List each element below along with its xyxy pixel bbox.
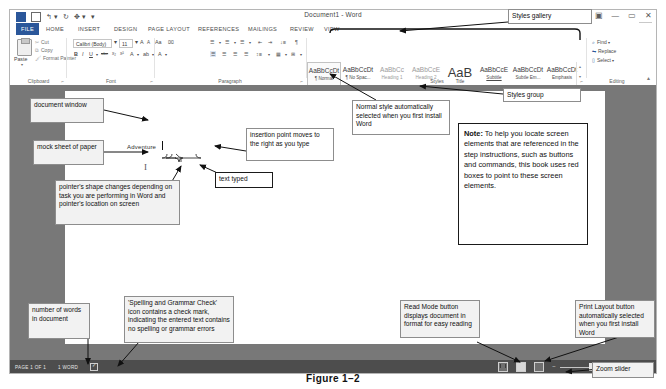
status-bar-left: PAGE 1 OF 1 1 WORD xyxy=(15,363,98,371)
shrink-font-button[interactable]: A xyxy=(147,40,150,45)
close-icon[interactable]: ✕ xyxy=(645,10,652,22)
zoom-out-icon[interactable]: − xyxy=(552,362,556,371)
show-formatting-marks-icon[interactable]: ¶ xyxy=(295,39,298,45)
grow-font-button[interactable]: A xyxy=(140,39,144,45)
tab-references[interactable]: REFERENCES xyxy=(198,23,239,35)
font-name-input[interactable]: Calibri (Body) xyxy=(73,39,112,48)
borders-dropdown-icon[interactable]: ▾ xyxy=(300,52,302,57)
figure-caption: Figure 1–2 xyxy=(0,373,666,384)
line-spacing-dropdown-icon[interactable]: ▾ xyxy=(268,52,270,57)
tab-view[interactable]: VIEW xyxy=(324,23,340,35)
ribbon: Paste ▾ ✂Cut ⧉Copy 🖌Format Painter Clipb… xyxy=(10,35,656,86)
borders-icon[interactable]: ⊞ xyxy=(291,51,295,57)
justify-icon[interactable]: ☰ xyxy=(244,51,248,57)
font-size-input[interactable]: 11 xyxy=(119,39,133,48)
strikethrough-button[interactable]: abc xyxy=(101,51,108,56)
note-body: To help you locate screen elements that … xyxy=(464,129,579,190)
group-label-clipboard: Clipboard xyxy=(10,78,67,84)
shading-icon[interactable]: ▦ xyxy=(276,51,281,57)
bullets-dropdown-icon[interactable]: ▾ xyxy=(219,40,221,45)
binoculars-icon: ⌕ xyxy=(592,39,595,45)
insertion-point xyxy=(162,141,163,150)
callout-note: Note: To help you locate screen elements… xyxy=(458,123,588,245)
web-layout-button[interactable] xyxy=(534,362,544,372)
cut-button[interactable]: ✂Cut xyxy=(35,39,49,45)
copy-button[interactable]: ⧉Copy xyxy=(35,47,53,54)
minimize-icon[interactable]: — xyxy=(612,10,620,22)
styles-dialog-launcher[interactable]: ⌐ xyxy=(580,79,583,84)
ribbon-group-styles: Styles ⌐ xyxy=(307,35,587,85)
note-label: Note: xyxy=(464,129,483,138)
print-layout-button[interactable] xyxy=(516,362,526,372)
select-button[interactable]: ▯Select ▾ xyxy=(592,57,614,63)
increase-indent-icon[interactable]: ⇥ xyxy=(268,39,272,45)
ribbon-group-font: Calibri (Body) ▾ 11 ▾ A A Aa ⌧ B I U ▾ a… xyxy=(67,35,155,85)
superscript-button[interactable]: x² xyxy=(120,51,124,56)
callout-mock-sheet: mock sheet of paper xyxy=(33,140,104,165)
callout-document-window: document window xyxy=(30,98,104,123)
align-right-icon[interactable]: ☰ xyxy=(233,51,237,57)
sort-icon[interactable]: ↓≡ xyxy=(280,39,286,45)
subscript-button[interactable]: x₂ xyxy=(112,51,116,56)
copy-icon: ⧉ xyxy=(35,47,39,53)
callout-text-typed: text typed xyxy=(215,172,273,188)
spelling-and-grammar-check-icon[interactable] xyxy=(90,363,98,371)
word-count[interactable]: 1 WORD xyxy=(58,365,78,370)
collapse-ribbon-icon[interactable]: ▲ xyxy=(646,75,651,81)
replace-icon: ⇋ xyxy=(592,48,596,54)
page-indicator[interactable]: PAGE 1 OF 1 xyxy=(15,365,46,370)
font-name-dropdown-icon[interactable]: ▾ xyxy=(112,39,118,45)
group-label-font: Font xyxy=(67,78,155,84)
tab-page-layout[interactable]: PAGE LAYOUT xyxy=(148,23,190,35)
paste-icon[interactable] xyxy=(17,39,32,56)
select-icon: ▯ xyxy=(592,57,595,63)
numbering-icon[interactable]: ☰ xyxy=(225,39,229,45)
align-center-icon[interactable]: ☰ xyxy=(222,51,226,57)
text-effects-icon[interactable]: A xyxy=(130,51,134,57)
underline-button[interactable]: U xyxy=(89,51,93,57)
tab-mailings[interactable]: MAILINGS xyxy=(248,23,277,35)
numbering-dropdown-icon[interactable]: ▾ xyxy=(234,40,236,45)
clipboard-dialog-launcher[interactable]: ⌐ xyxy=(61,79,64,84)
multilevel-list-icon[interactable]: ☰ xyxy=(240,39,244,45)
callout-pointer-shape: pointer's shape changes depending on tas… xyxy=(55,180,180,225)
callout-print-layout: Print Layout button automatically select… xyxy=(575,300,655,338)
bold-button[interactable]: B xyxy=(74,51,78,57)
highlight-color-icon[interactable]: ab xyxy=(143,51,149,57)
align-left-icon[interactable]: ☰ xyxy=(210,51,216,57)
group-label-paragraph: Paragraph xyxy=(175,78,285,84)
underline-dropdown-icon[interactable]: ▾ xyxy=(96,52,98,57)
read-mode-button[interactable] xyxy=(498,362,508,372)
text-effects-dropdown-icon[interactable]: ▾ xyxy=(137,52,139,57)
line-spacing-icon[interactable]: ↕≡ xyxy=(256,51,262,57)
ribbon-display-options-icon[interactable]: ▣ xyxy=(595,10,603,22)
tab-design[interactable]: DESIGN xyxy=(114,23,137,35)
italic-button[interactable]: I xyxy=(82,51,84,57)
tab-review[interactable]: REVIEW xyxy=(290,23,314,35)
callout-styles-gallery: Styles gallery xyxy=(508,9,592,24)
replace-button[interactable]: ⇋Replace xyxy=(592,48,616,54)
callout-insertion-point: insertion point moves to the right as yo… xyxy=(246,128,334,161)
scissors-icon: ✂ xyxy=(35,39,39,45)
status-bar: PAGE 1 OF 1 1 WORD − + 100% xyxy=(10,360,656,373)
font-size-dropdown-icon[interactable]: ▾ xyxy=(133,39,139,45)
find-button[interactable]: ⌕Find ▾ xyxy=(592,39,610,46)
callout-normal-style: Normal style automatically selected when… xyxy=(352,100,450,135)
tab-home[interactable]: HOME xyxy=(46,23,64,35)
tab-insert[interactable]: INSERT xyxy=(78,23,100,35)
callout-word-count: number of words in document xyxy=(28,303,90,339)
group-label-editing: Editing xyxy=(587,78,647,84)
bullets-icon[interactable]: ☰ xyxy=(210,39,214,45)
tab-file[interactable]: FILE xyxy=(16,23,39,35)
ribbon-group-clipboard: Paste ▾ ✂Cut ⧉Copy 🖌Format Painter Clipb… xyxy=(10,35,67,85)
group-label-styles: Styles xyxy=(307,78,567,84)
multilevel-dropdown-icon[interactable]: ▾ xyxy=(249,40,251,45)
font-dialog-launcher[interactable]: ⌐ xyxy=(150,79,153,84)
paragraph-dialog-launcher[interactable]: ⌐ xyxy=(300,79,303,84)
paste-dropdown-icon[interactable]: ▾ xyxy=(21,62,23,67)
decrease-indent-icon[interactable]: ⇤ xyxy=(258,39,262,45)
shading-dropdown-icon[interactable]: ▾ xyxy=(285,52,287,57)
typed-text: Adventure xyxy=(127,144,156,150)
restore-icon[interactable]: ▭ xyxy=(628,10,636,22)
paintbrush-icon: 🖌 xyxy=(35,55,41,61)
